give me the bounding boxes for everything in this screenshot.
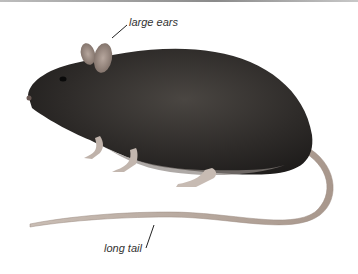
ears-pointer-line	[112, 25, 127, 38]
label-long-tail: long tail	[104, 242, 142, 254]
annotation-lines	[0, 0, 358, 274]
rat-illustration: large ears long tail	[0, 0, 358, 274]
label-large-ears: large ears	[129, 16, 178, 28]
tail-pointer-line	[146, 225, 154, 248]
